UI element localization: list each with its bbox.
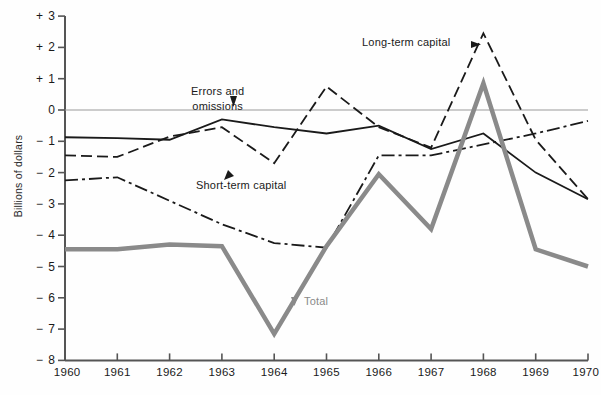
annotation-errors-and-omissions: Errors and omissions xyxy=(191,84,244,114)
annotation-total: Total xyxy=(304,294,328,309)
series-short-term-capital xyxy=(65,121,588,248)
annotation-long-term-capital: Long-term capital xyxy=(362,35,450,50)
arrow-long-term-capital xyxy=(471,41,481,48)
plot-area xyxy=(0,0,601,395)
chart-figure: Billions of dollars + 3+ 2+ 10− 1− 2− 3−… xyxy=(0,0,601,395)
series-long-term-capital xyxy=(65,33,588,199)
annotation-short-term-capital: Short-term capital xyxy=(196,178,286,193)
annotation-errors-line1: Errors and xyxy=(191,84,244,99)
annotation-errors-line2: omissions xyxy=(191,99,244,114)
